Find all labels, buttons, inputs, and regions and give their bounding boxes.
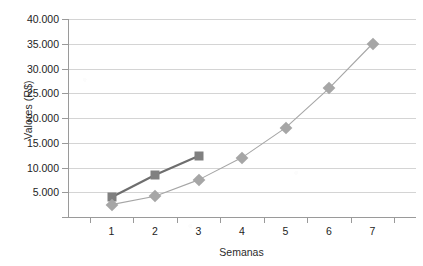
y-axis-tick-label: 35.000 <box>27 38 59 50</box>
x-axis-tick <box>307 217 308 223</box>
data-point-square <box>194 152 203 161</box>
x-axis-tick-label: 3 <box>196 225 202 237</box>
y-axis-tick-label: 5.000 <box>33 186 59 198</box>
y-axis-tick <box>62 217 68 218</box>
x-axis-title: Semanas <box>60 246 423 258</box>
x-axis-tick-label: 4 <box>239 225 245 237</box>
x-axis-tick-label: 7 <box>370 225 376 237</box>
x-axis-line <box>68 217 416 218</box>
series-line-diamond <box>112 44 373 205</box>
x-axis-tick <box>394 217 395 223</box>
y-axis-tick-label: 15.000 <box>27 137 59 149</box>
x-axis-tick <box>351 217 352 223</box>
x-axis-tick <box>133 217 134 223</box>
y-axis-tick-label: 20.000 <box>27 112 59 124</box>
data-point-square <box>151 170 160 179</box>
x-axis-tick-label: 2 <box>152 225 158 237</box>
x-axis-tick-label: 1 <box>109 225 115 237</box>
x-axis-tick <box>220 217 221 223</box>
y-axis-title-wrap: Valores (R$) <box>12 0 30 220</box>
series-lines <box>68 19 416 217</box>
x-axis-tick-label: 6 <box>326 225 332 237</box>
plot-area: 5.00010.00015.00020.00025.00030.00035.00… <box>68 19 416 217</box>
x-axis-tick <box>264 217 265 223</box>
x-axis-tick <box>177 217 178 223</box>
y-axis-tick-label: 40.000 <box>27 13 59 25</box>
x-axis-tick-label: 5 <box>283 225 289 237</box>
x-axis-tick <box>90 217 91 223</box>
y-axis-tick-label: 25.000 <box>27 87 59 99</box>
y-axis-tick-label: 10.000 <box>27 162 59 174</box>
line-chart: Valores (R$) 5.00010.00015.00020.00025.0… <box>0 0 423 266</box>
y-axis-tick-label: 30.000 <box>27 63 59 75</box>
